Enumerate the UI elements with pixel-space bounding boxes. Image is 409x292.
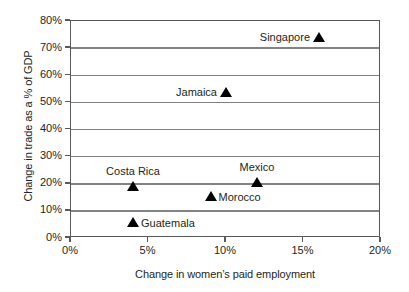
triangle-marker-icon bbox=[205, 191, 217, 201]
y-axis-label: 50% bbox=[2, 96, 62, 107]
y-axis-label: 80% bbox=[2, 15, 62, 26]
triangle-marker-icon bbox=[251, 177, 263, 187]
x-axis-tick bbox=[147, 237, 149, 242]
triangle-marker-icon bbox=[127, 181, 139, 191]
x-axis-tick bbox=[224, 237, 226, 242]
x-axis-label: 15% bbox=[273, 245, 333, 256]
y-axis-label: 70% bbox=[2, 42, 62, 53]
y-axis-tick bbox=[65, 19, 70, 21]
y-axis-label: 40% bbox=[2, 123, 62, 134]
y-axis-label: 20% bbox=[2, 177, 62, 188]
y-axis-tick bbox=[65, 155, 70, 157]
y-axis-label: 30% bbox=[2, 150, 62, 161]
data-point-label: Mexico bbox=[240, 162, 275, 173]
x-axis-tick bbox=[69, 237, 71, 242]
gridline-y bbox=[71, 183, 379, 185]
x-axis-label: 5% bbox=[118, 245, 178, 256]
triangle-marker-icon bbox=[220, 87, 232, 97]
x-axis-label: 20% bbox=[350, 245, 409, 256]
x-axis-label: 0% bbox=[40, 245, 100, 256]
gridline-y bbox=[71, 102, 379, 104]
triangle-marker-icon bbox=[127, 217, 139, 227]
x-axis-title: Change in women’s paid employment bbox=[70, 268, 380, 280]
y-axis-tick bbox=[65, 182, 70, 184]
triangle-marker-icon bbox=[313, 32, 325, 42]
gridline-y bbox=[71, 47, 379, 49]
scatter-chart: Change in trade as a % of GDP SingaporeJ… bbox=[0, 0, 409, 292]
data-point-label: Costa Rica bbox=[106, 166, 160, 177]
data-point-label: Jamaica bbox=[176, 87, 217, 98]
data-point-label: Morocco bbox=[219, 192, 261, 203]
y-axis-tick bbox=[65, 128, 70, 130]
y-axis-label: 0% bbox=[2, 232, 62, 243]
gridline-y bbox=[71, 129, 379, 131]
y-axis-label: 10% bbox=[2, 204, 62, 215]
data-point-label: Singapore bbox=[260, 32, 310, 43]
plot-area: SingaporeJamaicaMexicoCosta RicaMoroccoG… bbox=[70, 20, 380, 237]
x-axis-tick bbox=[379, 237, 381, 242]
y-axis-tick bbox=[65, 101, 70, 103]
gridline-y bbox=[71, 75, 379, 77]
y-axis-tick bbox=[65, 46, 70, 48]
y-axis-tick bbox=[65, 209, 70, 211]
x-axis-tick bbox=[302, 237, 304, 242]
y-axis-label: 60% bbox=[2, 69, 62, 80]
gridline-y bbox=[71, 156, 379, 158]
x-axis-label: 10% bbox=[195, 245, 255, 256]
y-axis-tick bbox=[65, 74, 70, 76]
gridline-y bbox=[71, 210, 379, 212]
data-point-label: Guatemala bbox=[141, 218, 195, 229]
